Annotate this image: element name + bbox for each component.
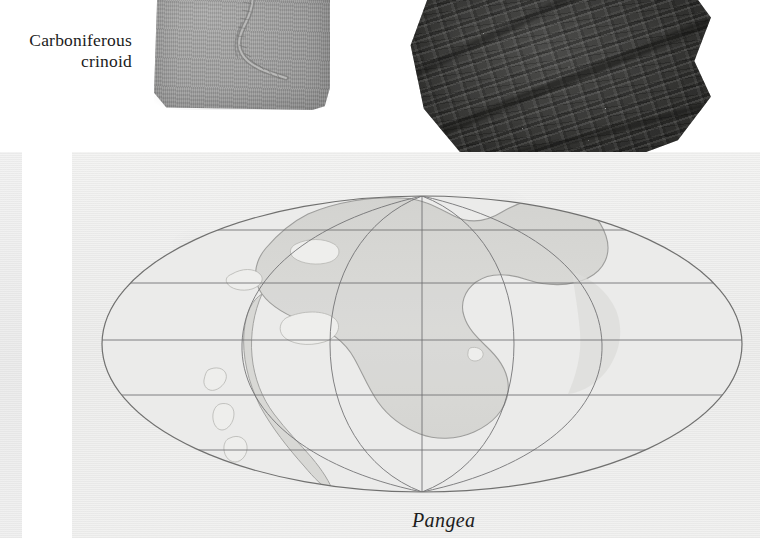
caption-line-1: Carboniferous <box>29 30 132 50</box>
fern-mineral-specks <box>404 0 734 172</box>
caption-line-2: crinoid <box>4 51 132 72</box>
figure-page: Carboniferous crinoid <box>0 0 778 551</box>
left-panel-strip <box>0 152 22 538</box>
pangea-map-label: Pangea <box>412 509 476 532</box>
pangea-map-panel: Pangea <box>72 152 760 538</box>
crinoid-stem-overlay <box>154 0 330 110</box>
fern-fossil-photo <box>404 0 734 172</box>
crinoid-fossil-photo <box>154 0 330 110</box>
pangea-mollweide-map <box>72 152 760 538</box>
figure-caption: Carboniferous crinoid <box>4 30 132 72</box>
